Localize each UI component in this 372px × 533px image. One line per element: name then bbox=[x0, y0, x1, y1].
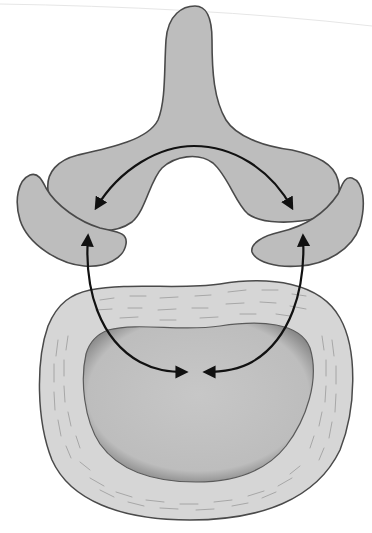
posterior-arch bbox=[48, 6, 339, 230]
vertebra-diagram bbox=[0, 0, 372, 533]
